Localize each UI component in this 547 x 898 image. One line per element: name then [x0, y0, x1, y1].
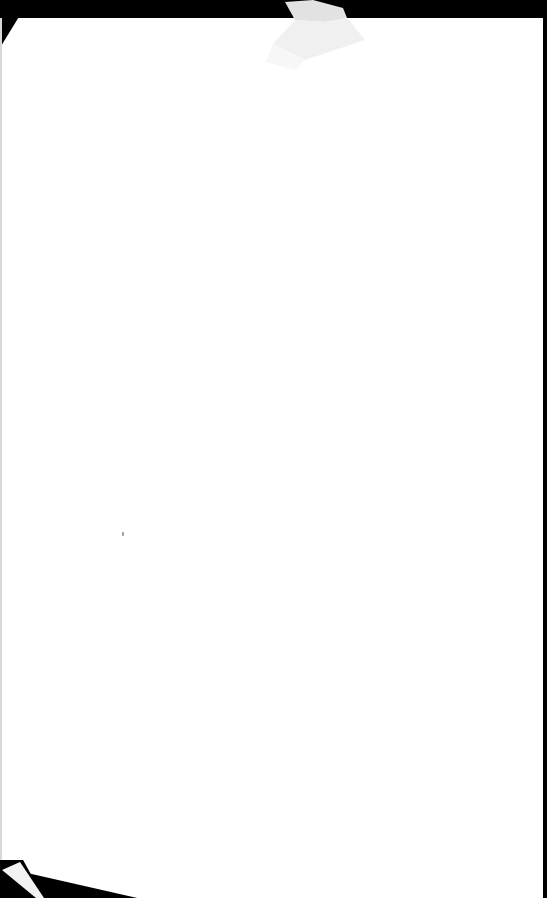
- folded-corner-bottom: [0, 860, 60, 898]
- blank-page: [2, 18, 543, 898]
- folded-corner-top: [255, 0, 365, 70]
- page-left-edge: [0, 18, 2, 878]
- speck-mark: [122, 532, 124, 536]
